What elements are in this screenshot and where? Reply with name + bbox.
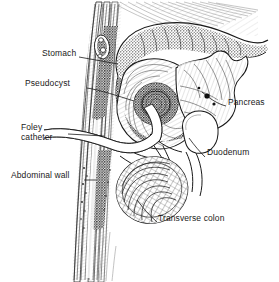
label-stomach: Stomach <box>42 48 76 58</box>
label-pseudocyst: Pseudocyst <box>25 78 70 88</box>
label-duodenum: Duodenum <box>207 147 249 157</box>
pseudocyst-drainage-illustration: Stomach Pseudocyst Foley catheter Abdomi… <box>0 0 279 282</box>
label-foley-catheter: Foley catheter <box>21 122 53 142</box>
label-transverse-colon: Transverse colon <box>158 213 224 223</box>
label-abdominal-wall: Abdominal wall <box>11 170 70 180</box>
label-pancreas: Pancreas <box>228 97 265 107</box>
